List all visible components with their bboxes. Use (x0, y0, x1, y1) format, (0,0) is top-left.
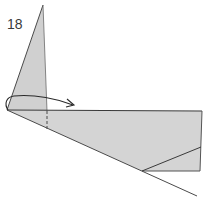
horizontal-panel (7, 110, 202, 171)
origami-diagram (0, 0, 209, 198)
